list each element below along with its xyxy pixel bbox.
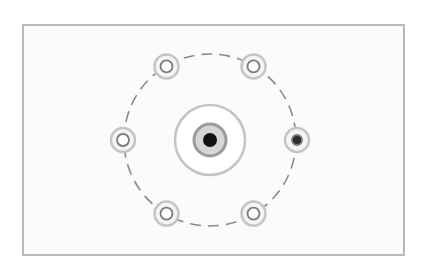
- satellite-core: [161, 208, 173, 220]
- satellite-node-bottom-right[interactable]: [242, 202, 266, 226]
- satellite-core: [292, 135, 302, 145]
- satellite-core: [248, 60, 260, 72]
- satellite-node-right[interactable]: [285, 128, 309, 152]
- satellite-node-top-right[interactable]: [242, 54, 266, 78]
- satellite-core: [117, 134, 129, 146]
- center-node[interactable]: [175, 105, 245, 175]
- hub-ring-diagram: [0, 0, 421, 268]
- satellite-core: [248, 208, 260, 220]
- satellite-node-bottom-left[interactable]: [155, 202, 179, 226]
- center-node-core: [203, 133, 217, 147]
- satellite-core: [161, 60, 173, 72]
- satellite-node-left[interactable]: [111, 128, 135, 152]
- satellite-node-top-left[interactable]: [155, 54, 179, 78]
